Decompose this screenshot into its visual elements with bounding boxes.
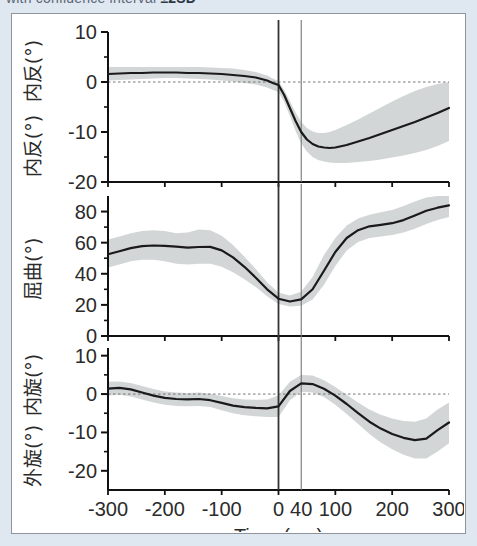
x-tick-label: 0 bbox=[273, 498, 284, 520]
panel-0: 100-10-20内反(°)内反(°) bbox=[22, 20, 449, 193]
y-tick-label: 10 bbox=[75, 21, 97, 43]
y-tick-label: 10 bbox=[75, 345, 97, 367]
figure-stage: with confidence interval ±2SD 100-10-20内… bbox=[0, 0, 477, 546]
y-tick-label: -20 bbox=[68, 171, 97, 193]
panel-1: 806040200屈曲(°) bbox=[22, 184, 449, 347]
panel-2: 100-10-20内旋(°)外旋(°) bbox=[22, 336, 449, 495]
x-tick-label: 300 bbox=[432, 498, 465, 520]
caption-strip: with confidence interval ±2SD bbox=[0, 0, 477, 12]
plot-root: 100-10-20内反(°)内反(°)806040200屈曲(°)100-10-… bbox=[22, 20, 465, 533]
y-axis-label-top: 内反(°) bbox=[22, 40, 44, 102]
y-tick-label: 60 bbox=[75, 232, 97, 254]
y-axis-label-top: 内旋(°) bbox=[22, 354, 44, 416]
y-tick-label: 80 bbox=[75, 201, 97, 223]
y-tick-label: -10 bbox=[68, 121, 97, 143]
kinematics-plot: 100-10-20内反(°)内反(°)806040200屈曲(°)100-10-… bbox=[12, 14, 465, 533]
x-tick-label: -200 bbox=[145, 498, 185, 520]
y-axis-label-top: 屈曲(°) bbox=[22, 238, 44, 300]
figure-frame: 100-10-20内反(°)内反(°)806040200屈曲(°)100-10-… bbox=[11, 13, 466, 534]
caption-text: with confidence interval ±2SD bbox=[6, 0, 196, 6]
y-axis-label-bottom: 外旋(°) bbox=[22, 425, 44, 487]
y-axis-label-bottom: 内反(°) bbox=[22, 115, 44, 177]
y-tick-label: -20 bbox=[68, 460, 97, 482]
x-tick-label: 40 bbox=[290, 498, 312, 520]
caption-plain: with confidence interval bbox=[6, 0, 160, 6]
x-axis-title: Time (ms) bbox=[234, 525, 323, 533]
x-tick-label: 200 bbox=[375, 498, 408, 520]
x-tick-label: -100 bbox=[202, 498, 242, 520]
y-tick-label: 20 bbox=[75, 294, 97, 316]
y-tick-label: -10 bbox=[68, 421, 97, 443]
y-tick-label: 40 bbox=[75, 263, 97, 285]
caption-bold: ±2SD bbox=[160, 0, 196, 6]
x-axis-labels: -300-200-100040100200300Time (ms) bbox=[88, 498, 465, 533]
x-tick-label: 100 bbox=[319, 498, 352, 520]
x-tick-label: -300 bbox=[88, 498, 128, 520]
y-tick-label: 0 bbox=[86, 71, 97, 93]
y-tick-label: 0 bbox=[86, 383, 97, 405]
